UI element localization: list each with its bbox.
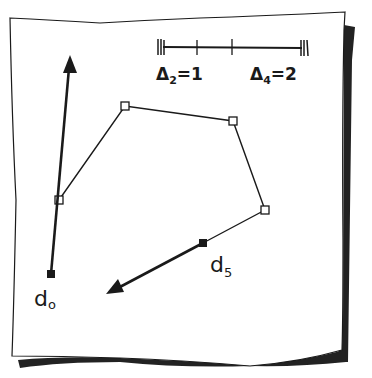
diagram-canvas: Δ2=1 Δ4=2 do d5 [0, 0, 372, 378]
control-point[interactable] [229, 117, 237, 125]
scale-label-delta4: Δ4=2 [250, 64, 297, 87]
control-point[interactable] [261, 206, 269, 214]
vector-d5-origin-point[interactable] [199, 239, 207, 247]
vector-d0-origin-point[interactable] [47, 270, 55, 278]
control-point[interactable] [121, 102, 129, 110]
scale-label-delta2: Δ2=1 [156, 64, 203, 87]
scale-bar-endcap-right [307, 40, 308, 56]
diagram-svg: Δ2=1 Δ4=2 do d5 [0, 0, 372, 378]
